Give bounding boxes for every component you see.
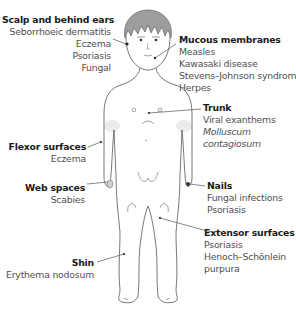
condition: Scabies bbox=[2, 194, 85, 206]
condition: Viral exanthems bbox=[203, 114, 276, 126]
condition: Psoriasis bbox=[2, 50, 111, 62]
condition: Seborrhoeic dermatitis bbox=[2, 26, 111, 38]
body-details bbox=[124, 108, 170, 300]
condition: Fungal bbox=[2, 62, 111, 74]
region-title: Web spaces bbox=[2, 182, 85, 194]
label-nails: Nails Fungal infections Psoriasis bbox=[207, 180, 283, 216]
web-space-marker bbox=[107, 180, 113, 188]
condition: Stevens–Johnson syndrome bbox=[179, 70, 296, 82]
condition: Henoch–Schönlein bbox=[204, 251, 294, 263]
label-web-spaces: Web spaces Scabies bbox=[2, 182, 85, 206]
condition: Eczema bbox=[2, 38, 111, 50]
condition: Molluscum bbox=[203, 126, 276, 138]
condition: Psoriasis bbox=[207, 204, 283, 216]
region-title: Nails bbox=[207, 180, 283, 192]
head bbox=[125, 10, 172, 70]
condition: Erythema nodosum bbox=[2, 269, 94, 281]
region-title: Shin bbox=[2, 257, 94, 269]
body-outline bbox=[104, 68, 192, 303]
label-extensor-surfaces: Extensor surfaces Psoriasis Henoch–Schön… bbox=[204, 227, 294, 275]
condition: Herpes bbox=[179, 82, 296, 94]
label-trunk: Trunk Viral exanthems Molluscum contagio… bbox=[203, 102, 276, 150]
condition: Psoriasis bbox=[204, 239, 294, 251]
condition: Eczema bbox=[2, 153, 86, 165]
region-title: Flexor surfaces bbox=[2, 141, 86, 153]
flexor-shade-left bbox=[104, 120, 120, 132]
skin-distribution-diagram: Scalp and behind ears Seborrhoeic dermat… bbox=[0, 0, 296, 312]
label-shin: Shin Erythema nodosum bbox=[2, 257, 94, 281]
condition: purpura bbox=[204, 263, 294, 275]
flexor-shade-right bbox=[176, 120, 192, 132]
region-title: Extensor surfaces bbox=[204, 227, 294, 239]
region-title: Mucous membranes bbox=[179, 34, 296, 46]
condition: Measles bbox=[179, 46, 296, 58]
region-title: Scalp and behind ears bbox=[2, 14, 111, 26]
nail-marker bbox=[186, 182, 190, 186]
label-flexor-surfaces: Flexor surfaces Eczema bbox=[2, 141, 86, 165]
label-scalp: Scalp and behind ears Seborrhoeic dermat… bbox=[2, 14, 111, 74]
region-title: Trunk bbox=[203, 102, 276, 114]
condition: Fungal infections bbox=[207, 192, 283, 204]
condition: contagiosum bbox=[203, 138, 276, 150]
label-mucous-membranes: Mucous membranes Measles Kawasaki diseas… bbox=[179, 34, 296, 94]
condition: Kawasaki disease bbox=[179, 58, 296, 70]
